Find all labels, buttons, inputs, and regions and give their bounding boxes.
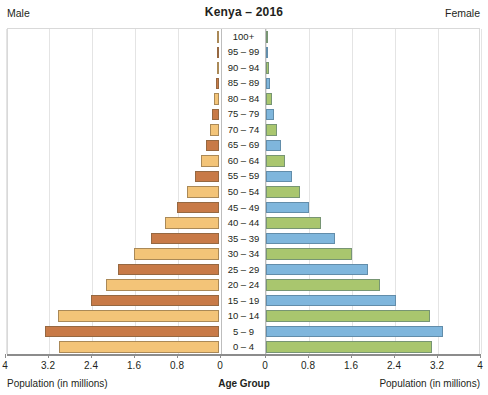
bar-male (45, 326, 219, 337)
bar-male (212, 109, 219, 120)
bar-male (59, 341, 219, 352)
age-group-label: 15 – 19 (221, 296, 266, 306)
bar-male (217, 47, 219, 58)
age-group-label: 50 – 54 (221, 187, 266, 197)
axis-tick-label: 1.6 (127, 360, 141, 371)
age-group-label: 80 – 84 (221, 94, 266, 104)
bar-female (266, 295, 396, 306)
bar-female (266, 341, 432, 352)
bar-male (206, 140, 219, 151)
bar-male (177, 202, 219, 213)
right-axis-title: Population (in millions) (379, 378, 480, 389)
bar-female (266, 310, 430, 321)
age-group-label: 75 – 79 (221, 109, 266, 119)
age-group-label: 65 – 69 (221, 140, 266, 150)
age-group-label: 70 – 74 (221, 125, 266, 135)
axis-tick-label: 4 (2, 360, 8, 371)
axis-tick-label: 0.8 (301, 360, 315, 371)
axis-tick (394, 354, 395, 358)
gridline (481, 29, 482, 354)
bar-male (134, 248, 219, 259)
bar-male (118, 264, 219, 275)
bar-female (266, 31, 268, 42)
age-group-label: 10 – 14 (221, 311, 266, 321)
bar-male (187, 186, 219, 197)
bar-female (266, 202, 309, 213)
age-group-label: 45 – 49 (221, 203, 266, 213)
plot-area: 100+95 – 9990 – 9485 – 8980 – 8475 – 797… (7, 28, 480, 354)
population-pyramid-chart: Male Female Kenya – 2016 100+95 – 9990 –… (0, 0, 488, 395)
age-group-label: 95 – 99 (221, 47, 266, 57)
age-group-label: 100+ (221, 32, 266, 42)
bar-male (58, 310, 219, 321)
bar-male (214, 93, 219, 104)
axis-tick (480, 354, 481, 358)
bar-male (216, 78, 219, 89)
axis-tick-label: 4 (477, 360, 483, 371)
bar-male (217, 31, 219, 42)
axis-tick (437, 354, 438, 358)
axis-tick (177, 354, 178, 358)
gridline (438, 29, 439, 354)
gridline (49, 29, 50, 354)
bar-female (266, 93, 272, 104)
axis-tick (134, 354, 135, 358)
axis-tick-label: 2.4 (387, 360, 401, 371)
age-group-label: 0 – 4 (221, 342, 266, 352)
axis-tick-label: 3.2 (430, 360, 444, 371)
bar-female (266, 186, 300, 197)
age-group-label: 85 – 89 (221, 78, 266, 88)
bar-male (165, 217, 219, 228)
gridline (6, 29, 7, 354)
bar-female (266, 171, 292, 182)
age-group-label: 30 – 34 (221, 249, 266, 259)
bar-male (201, 155, 219, 166)
age-group-label: 35 – 39 (221, 234, 266, 244)
axis-tick-label: 0.8 (170, 360, 184, 371)
age-group-label: 60 – 64 (221, 156, 266, 166)
bar-female (266, 248, 352, 259)
axis-tick-label: 1.6 (344, 360, 358, 371)
age-group-label: 5 – 9 (221, 327, 266, 337)
axis-tick (5, 354, 6, 358)
bar-male (106, 279, 219, 290)
bar-female (266, 78, 270, 89)
x-axis-line (7, 354, 480, 356)
bar-female (266, 124, 277, 135)
bar-female (266, 326, 443, 337)
age-group-label: 25 – 29 (221, 265, 266, 275)
age-group-label: 90 – 94 (221, 63, 266, 73)
axis-tick-label: 0 (217, 360, 223, 371)
bar-female (266, 62, 269, 73)
bar-female (266, 47, 268, 58)
bar-female (266, 217, 321, 228)
axis-tick (220, 354, 221, 358)
axis-tick (48, 354, 49, 358)
age-group-label: 40 – 44 (221, 218, 266, 228)
bar-male (151, 233, 219, 244)
axis-tick-label: 0 (262, 360, 268, 371)
age-group-label: 55 – 59 (221, 171, 266, 181)
bar-female (266, 155, 285, 166)
bar-female (266, 279, 380, 290)
bar-male (217, 62, 219, 73)
axis-tick-label: 2.4 (84, 360, 98, 371)
bar-female (266, 109, 274, 120)
bar-female (266, 233, 335, 244)
bar-male (195, 171, 219, 182)
bar-male (210, 124, 219, 135)
axis-tick (91, 354, 92, 358)
age-group-label: 20 – 24 (221, 280, 266, 290)
axis-tick-label: 3.2 (41, 360, 55, 371)
axis-tick (265, 354, 266, 358)
axis-tick (308, 354, 309, 358)
bar-female (266, 140, 281, 151)
bar-male (91, 295, 219, 306)
chart-title: Kenya – 2016 (0, 5, 488, 19)
bar-female (266, 264, 368, 275)
axis-tick (351, 354, 352, 358)
